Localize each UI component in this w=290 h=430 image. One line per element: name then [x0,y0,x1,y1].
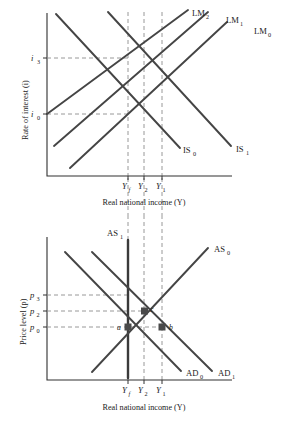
curve-label-lm0-sub: 0 [268,31,271,38]
bottom-x-tick-label-y1: Y 1 [156,385,166,397]
bottom-y-tick-label-p0: p 0 [29,322,40,334]
curve-label-ad1-base: AD [218,368,230,378]
curve-label-ad1-sub: 1 [232,373,235,380]
bottom-y-tick-p2-sub: 2 [37,311,40,318]
curve-label-lm2-sub: 2 [206,13,209,20]
curve-lm1 [54,12,208,146]
top-y-axis-title: Rate of interest (i) [21,80,30,140]
marker-point-c [141,308,148,315]
curve-label-lm2: LM 2 [192,8,209,20]
top-x-tick-y1-base: Y [156,181,162,191]
bottom-x-tick-label-yf: Y f [122,385,132,397]
curve-label-ad0: AD 0 [186,368,203,380]
marker-point-b [159,324,166,331]
bottom-y-tick-label-p3: p 3 [29,290,40,302]
figure-root: i 3 i 0 Y f Y 2 Y 1 LM 2 [0,0,290,430]
curve-label-as1: AS 1 [107,228,123,240]
curve-label-lm0: LM 0 [254,26,271,38]
bottom-y-tick-p0-base: p [29,322,35,332]
curve-label-as1-base: AS [107,228,118,238]
curve-label-as0: AS 0 [214,244,230,256]
top-x-tick-yf-base: Y [122,181,128,191]
curve-label-lm1: LM 1 [226,15,243,27]
top-x-tick-y2-base: Y [138,181,144,191]
top-x-tick-y2-sub: 2 [145,186,148,193]
point-label-b: b [169,323,173,332]
top-x-tick-y1-sub: 1 [163,186,166,193]
curve-label-lm2-base: LM [192,8,205,18]
bottom-y-tick-p3-base: p [29,290,35,300]
curve-label-lm1-sub: 1 [240,20,243,27]
bottom-x-tick-y1-base: Y [156,385,162,395]
curve-label-ad1: AD 1 [218,368,235,380]
curve-lm2 [47,10,188,114]
marker-point-a [125,324,132,331]
curve-ad0 [65,252,181,371]
curve-label-ad0-base: AD [186,368,198,378]
curve-label-is0: IS 0 [183,145,196,157]
bottom-x-tick-y2-sub: 2 [145,390,148,397]
top-y-tick-label-i3: i 3 [31,53,40,65]
bottom-axes [47,237,232,380]
bottom-y-tick-p3-sub: 3 [37,295,40,302]
top-y-tick-i3-base: i [31,53,34,63]
curve-label-is1-sub: 1 [246,149,249,156]
bottom-x-tick-yf-base: Y [122,385,128,395]
top-x-tick-label-y2: Y 2 [138,181,148,193]
curve-label-is0-base: IS [183,145,191,155]
bottom-y-axis-title: Price level (p) [19,298,28,345]
top-x-tick-yf-sub: f [129,186,132,193]
top-panel-is-lm: i 3 i 0 Y f Y 2 Y 1 LM 2 [21,8,271,207]
top-y-tick-i0-base: i [31,109,34,119]
curve-label-ad0-sub: 0 [200,373,203,380]
bottom-x-tick-y2-base: Y [138,385,144,395]
top-x-axis-title: Real national income (Y) [103,198,186,207]
bottom-panel-ad-as: a b c p 3 p 2 p 0 [19,228,235,412]
point-label-a: a [117,323,121,332]
top-x-tick-label-y1: Y 1 [156,181,166,193]
curve-label-is1: IS 1 [236,144,249,156]
top-y-tick-i3-sub: 3 [37,58,40,65]
bottom-x-tick-label-y2: Y 2 [138,385,148,397]
curve-label-lm0-base: LM [254,26,267,36]
curve-label-is1-base: IS [236,144,244,154]
top-y-tick-i0-sub: 0 [37,114,40,121]
bottom-x-tick-yf-sub: f [129,390,132,397]
curve-label-lm1-base: LM [226,15,239,25]
economics-two-panel-figure: i 3 i 0 Y f Y 2 Y 1 LM 2 [0,0,290,430]
curve-label-as0-sub: 0 [227,249,230,256]
bottom-x-tick-y1-sub: 1 [163,390,166,397]
bottom-y-tick-p2-base: p [29,306,35,316]
curve-label-as1-sub: 1 [120,233,123,240]
bottom-x-axis-title: Real national income (Y) [103,403,186,412]
curve-label-is0-sub: 0 [193,150,196,157]
top-x-tick-label-yf: Y f [122,181,132,193]
top-y-tick-label-i0: i 0 [31,109,40,121]
curve-is1 [108,12,231,146]
curve-label-as0-base: AS [214,244,225,254]
curve-lm0 [70,22,227,168]
bottom-y-tick-label-p2: p 2 [29,306,40,318]
bottom-y-tick-p0-sub: 0 [37,327,40,334]
